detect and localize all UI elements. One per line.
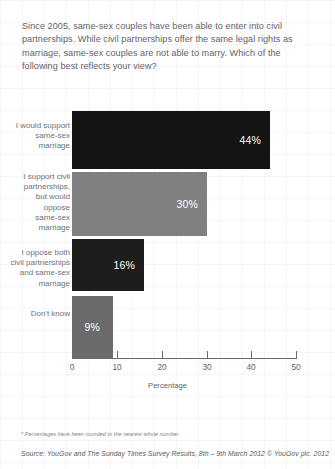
bar-3: 9% (72, 296, 113, 358)
bar-value-0: 44% (239, 134, 270, 146)
x-axis-tick-10 (117, 351, 118, 359)
source-text: Source: YouGov and The Sunday Times Surv… (21, 450, 329, 457)
x-axis-tick-20 (162, 351, 163, 359)
category-label-line: partnerships, (2, 182, 70, 192)
category-label-line: and same-sex (2, 268, 70, 278)
chart-figure: Since 2005, same-sex couples have been a… (0, 0, 335, 469)
category-label-line: marriage (2, 279, 70, 289)
category-label-line: Don't know (2, 309, 70, 319)
x-axis-tick-label-10: 10 (104, 362, 130, 372)
x-axis-tick-40 (251, 351, 252, 359)
category-label-line: marriage (2, 141, 70, 151)
x-axis-tick-30 (207, 351, 208, 359)
category-label-line: I would support (2, 121, 70, 131)
bar-2: 16% (72, 239, 144, 291)
category-label-line: I oppose both (2, 248, 70, 258)
question-text: Since 2005, same-sex couples have been a… (22, 20, 314, 74)
category-label-3: Don't know (2, 309, 70, 319)
bar-value-1: 30% (176, 198, 207, 210)
category-label-2: I oppose both civil partnerships and sam… (2, 248, 70, 289)
plot-area: I would support same-sex marriage 44% I … (0, 104, 335, 362)
category-label-line: same-sex (2, 213, 70, 223)
x-axis-tick-label-0: 0 (59, 362, 85, 372)
category-label-line: but would (2, 192, 70, 202)
category-label-1: I support civil partnerships, but would … (2, 172, 70, 233)
x-axis-tick-label-20: 20 (149, 362, 175, 372)
bar-0: 44% (72, 111, 270, 169)
bar-value-2: 16% (113, 259, 144, 271)
x-axis-tick-label-40: 40 (238, 362, 264, 372)
x-axis-title: Percentage (0, 381, 335, 390)
x-axis-right-cap (296, 351, 297, 359)
category-label-line: civil partnerships (2, 258, 70, 268)
x-axis-tick-label-50: 50 (283, 362, 309, 372)
category-label-line: marriage (2, 223, 70, 233)
category-label-line: I support civil (2, 172, 70, 182)
category-label-0: I would support same-sex marriage (2, 121, 70, 152)
footnote-text: * Percentages have been rounded to the n… (21, 431, 179, 437)
category-label-line: oppose (2, 203, 70, 213)
x-axis-left-cap (72, 351, 73, 359)
x-axis-tick-label-30: 30 (194, 362, 220, 372)
bar-value-3: 9% (72, 321, 113, 333)
category-label-line: same-sex (2, 131, 70, 141)
x-axis-line (72, 358, 297, 359)
bar-1: 30% (72, 172, 207, 236)
